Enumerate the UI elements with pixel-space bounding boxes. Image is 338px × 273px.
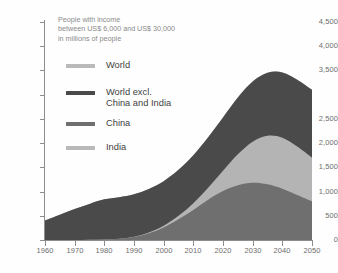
x-tick-label-2020: 2020 xyxy=(206,247,240,255)
y-tick-2500 xyxy=(40,119,45,120)
y-tick-label-4500: 4,500 xyxy=(302,18,338,26)
legend-item-china[interactable]: China xyxy=(66,118,130,129)
x-tick-label-2040: 2040 xyxy=(265,247,299,255)
legend-label-china: China xyxy=(106,118,130,129)
chart-figure: People with income between US$ 6,000 and… xyxy=(0,0,338,273)
legend-label-china-line1: China xyxy=(106,118,130,129)
y-tick-label-3500: 3,500 xyxy=(302,66,338,74)
y-tick-label-1500: 1,500 xyxy=(302,163,338,171)
legend-swatch-world-excl xyxy=(66,91,95,95)
x-tick-label-1980: 1980 xyxy=(87,247,121,255)
y-tick-4500 xyxy=(40,22,45,23)
legend-label-world-excl-line2: China and India xyxy=(106,98,171,109)
y-tick-500 xyxy=(40,216,45,217)
x-tick-label-2010: 2010 xyxy=(176,247,210,255)
y-axis-line xyxy=(44,20,45,241)
y-tick-2000 xyxy=(40,143,45,144)
legend-item-india[interactable]: India xyxy=(66,142,126,153)
legend-label-world: World xyxy=(106,60,130,71)
legend-label-india: India xyxy=(106,142,126,153)
legend-label-world-excl-line1: World excl. xyxy=(106,87,171,98)
legend-label-world-line1: World xyxy=(106,60,130,71)
x-tick-label-1960: 1960 xyxy=(28,247,62,255)
legend-swatch-india xyxy=(66,146,95,150)
y-tick-3000 xyxy=(40,95,45,96)
y-tick-label-4000: 4,000 xyxy=(302,42,338,50)
y-tick-1500 xyxy=(40,167,45,168)
plot-area xyxy=(45,22,312,240)
legend-item-world[interactable]: World xyxy=(66,60,130,71)
y-tick-3500 xyxy=(40,70,45,71)
x-tick-label-1990: 1990 xyxy=(117,247,151,255)
legend-item-world-excl[interactable]: World excl. China and India xyxy=(66,87,171,108)
x-axis-line xyxy=(44,240,313,241)
y-tick-label-500: 500 xyxy=(302,212,338,220)
y-tick-label-2500: 2,500 xyxy=(302,115,338,123)
y-tick-4000 xyxy=(40,46,45,47)
legend-label-world-excl: World excl. China and India xyxy=(106,87,171,108)
stacked-area-svg xyxy=(45,22,312,240)
y-tick-1000 xyxy=(40,192,45,193)
legend-label-india-line1: India xyxy=(106,142,126,153)
y-tick-label-1000: 1,000 xyxy=(302,188,338,196)
y-tick-label-0: 0 xyxy=(302,236,338,244)
legend-swatch-china xyxy=(66,122,95,126)
legend-swatch-world xyxy=(66,64,95,68)
x-tick-label-2050: 2050 xyxy=(295,247,329,255)
y-tick-label-2000: 2,000 xyxy=(302,139,338,147)
